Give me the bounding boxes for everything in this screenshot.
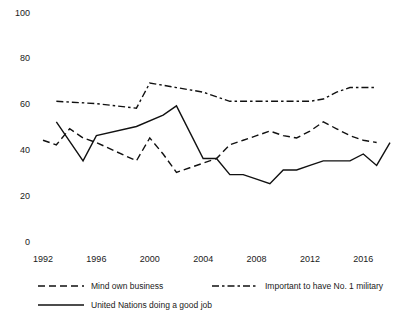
chart-legend: Mind own businessImportant to have No. 1…	[38, 281, 384, 310]
legend-item-label: United Nations doing a good job	[91, 300, 212, 310]
series-line-dashdot	[56, 83, 376, 108]
line-chart: 020406080100 199219962000200420082012201…	[0, 0, 412, 321]
legend-item: United Nations doing a good job	[38, 300, 212, 310]
legend-item: Important to have No. 1 military	[212, 281, 384, 291]
legend-item-label: Important to have No. 1 military	[265, 281, 384, 291]
y-tick-label: 40	[20, 145, 30, 155]
y-tick-label: 60	[20, 99, 30, 109]
y-axis-tick-labels: 020406080100	[15, 8, 30, 247]
y-tick-label: 100	[15, 8, 30, 18]
x-tick-label: 1996	[86, 254, 106, 264]
x-tick-label: 2016	[353, 254, 373, 264]
x-axis-tick-labels: 1992199620002004200820122016	[33, 254, 373, 264]
x-tick-label: 2008	[247, 254, 267, 264]
y-tick-label: 20	[20, 191, 30, 201]
y-tick-label: 80	[20, 53, 30, 63]
chart-canvas: 020406080100 199219962000200420082012201…	[0, 0, 412, 321]
series-line-solid	[56, 106, 390, 184]
legend-item: Mind own business	[38, 281, 163, 291]
x-tick-label: 2012	[300, 254, 320, 264]
x-tick-label: 1992	[33, 254, 53, 264]
series-line-dashed	[43, 122, 377, 172]
series-lines	[43, 83, 390, 184]
y-tick-label: 0	[25, 237, 30, 247]
x-tick-label: 2000	[140, 254, 160, 264]
x-tick-label: 2004	[193, 254, 213, 264]
legend-item-label: Mind own business	[91, 281, 163, 291]
